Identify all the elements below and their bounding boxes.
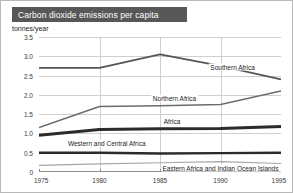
series-line — [39, 153, 281, 154]
plot-area: 3.53.02.52.01.51.00.50197519801985199019… — [39, 37, 281, 172]
y-axis-tick-label: 3.5 — [24, 34, 33, 41]
y-axis-tick-label: 0 — [29, 169, 33, 176]
x-axis-tick-label: 1980 — [92, 177, 106, 184]
series-label: Southern Africa — [208, 64, 256, 71]
series-lines — [39, 37, 281, 172]
y-axis-tick-label: 2.5 — [24, 72, 33, 79]
chart-title-bar: Carbon dioxide emissions per capita — [12, 7, 187, 22]
x-axis-tick-label: 1975 — [34, 177, 48, 184]
series-label: Northern Africa — [151, 94, 198, 101]
chart-figure: Carbon dioxide emissions per capita tonn… — [0, 0, 293, 193]
y-axis-tick-label: 3.0 — [24, 53, 33, 60]
page-title: Carbon dioxide emissions per capita — [18, 10, 159, 20]
series-label: Eastern Africa and Indian Ocean Islands — [161, 165, 281, 172]
y-axis-tick-label: 1.5 — [24, 111, 33, 118]
x-axis-tick-label: 1990 — [213, 177, 227, 184]
y-axis-tick-label: 0.5 — [24, 149, 33, 156]
series-label: Western and Central Africa — [66, 140, 148, 147]
x-axis-tick-label: 1995 — [272, 177, 286, 184]
x-axis-tick-label: 1985 — [153, 177, 167, 184]
series-line — [39, 126, 281, 135]
y-axis-unit-label: tonnes/year — [12, 25, 49, 32]
y-axis-tick-label: 2.0 — [24, 91, 33, 98]
series-label: Africa — [162, 117, 183, 124]
y-axis-tick-label: 1.0 — [24, 130, 33, 137]
